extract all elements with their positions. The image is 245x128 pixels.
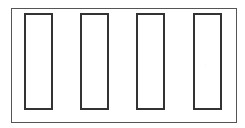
rectangle-3 — [136, 13, 165, 110]
rectangle-2 — [80, 13, 109, 110]
rectangle-1 — [24, 13, 53, 110]
faint-mark: · — [205, 63, 206, 68]
rectangle-4 — [193, 13, 222, 110]
